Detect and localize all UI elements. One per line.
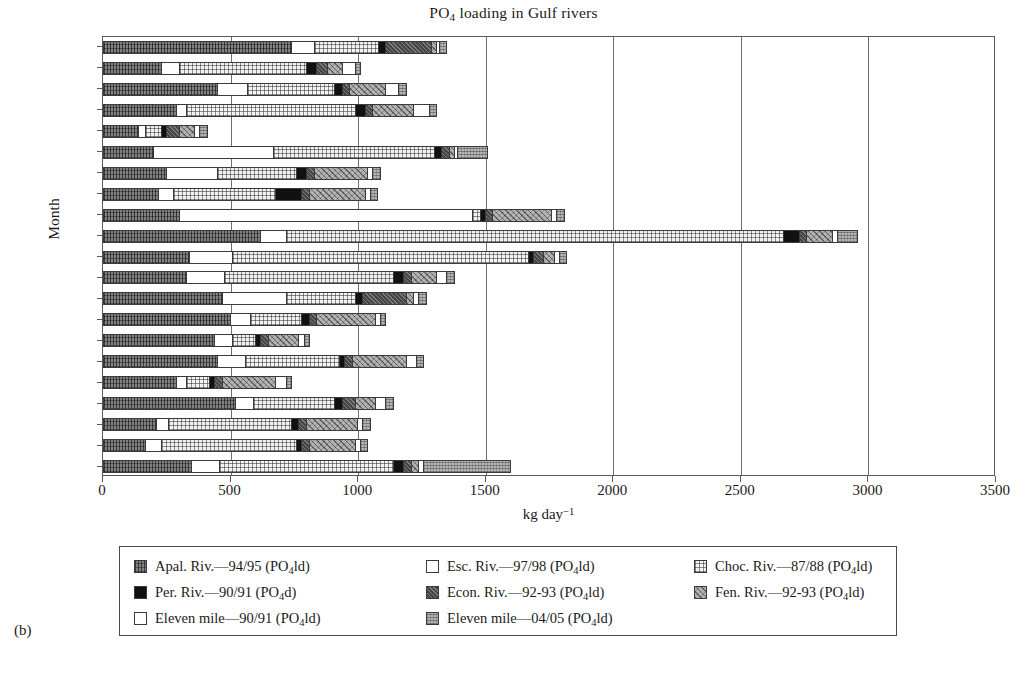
bar-segment-apal: [103, 41, 292, 54]
bar-segment-choc: [218, 167, 297, 180]
legend-swatch-choc: [694, 560, 707, 573]
bar-segment-esc: [218, 83, 249, 96]
bar-segment-apal: [103, 292, 223, 305]
y-tick-mark: [97, 298, 102, 299]
legend-item[interactable]: Eleven mile—04/05 (PO4ld): [426, 610, 694, 628]
x-tick-label: 2000: [597, 482, 627, 499]
bar-segment-esc: [218, 355, 246, 368]
bar-segment-eleven9091: [343, 62, 356, 75]
x-tick-mark: [357, 476, 358, 482]
legend-swatch-eleven0405: [426, 612, 439, 625]
bar-segment-fen: [223, 376, 277, 389]
legend-item[interactable]: Fen. Riv.—92-93 (PO4ld): [694, 584, 896, 602]
bar-row: [103, 230, 858, 243]
bar-segment-eleven0405: [386, 397, 394, 410]
bar-segment-eleven0405: [200, 125, 208, 138]
bar-row: [103, 313, 386, 326]
bar-segment-apal: [103, 125, 139, 138]
legend-grid: Apal. Riv.—94/95 (PO4ld)Esc. Riv.—97/98 …: [134, 554, 896, 632]
legend-item[interactable]: Choc. Riv.—87/88 (PO4ld): [694, 558, 896, 576]
x-axis-label-pre: kg day: [523, 506, 563, 522]
bar-segment-esc: [157, 418, 170, 431]
bar-segment-eleven0405: [361, 439, 369, 452]
bar-segment-esc: [146, 439, 161, 452]
bar-row: [103, 146, 488, 159]
legend-swatch-apal: [134, 560, 147, 573]
bar-segment-choc: [187, 104, 355, 117]
bar-segment-fen: [307, 418, 358, 431]
bar-segment-eleven0405: [560, 251, 568, 264]
bar-segment-fen: [180, 125, 195, 138]
bar-segment-per: [784, 230, 799, 243]
bar-row: [103, 271, 455, 284]
x-axis-label-superscript: −1: [563, 506, 574, 517]
chart-title: PO4 loading in Gulf rivers: [0, 4, 1027, 23]
bar-segment-esc: [180, 209, 473, 222]
x-tick-mark: [740, 476, 741, 482]
bar-row: [103, 41, 447, 54]
bar-segment-eleven0405: [838, 230, 858, 243]
bar-segment-choc: [251, 313, 302, 326]
x-axis-label: kg day−1: [102, 506, 995, 523]
legend-item[interactable]: Per. Riv.—90/91 (PO4d): [134, 584, 426, 602]
bar-segment-fen: [807, 230, 833, 243]
legend-item[interactable]: Apal. Riv.—94/95 (PO4ld): [134, 558, 426, 576]
bar-segment-apal: [103, 334, 215, 347]
bar-segment-eleven9091: [276, 376, 286, 389]
bar-segment-per: [394, 271, 404, 284]
bar-segment-econ: [366, 104, 374, 117]
legend-swatch-fen: [694, 586, 707, 599]
bar-segment-esc: [215, 334, 233, 347]
bar-segment-econ: [167, 125, 180, 138]
bar-segment-econ: [215, 376, 223, 389]
figure-panel-b: PO4 loading in Gulf rivers Month DecNovO…: [0, 0, 1027, 681]
bar-segment-fen: [317, 313, 376, 326]
bar-row: [103, 188, 378, 201]
bar-segment-fen: [310, 439, 356, 452]
bar-segment-choc: [274, 146, 435, 159]
bar-segment-choc: [174, 188, 276, 201]
legend-label: Apal. Riv.—94/95 (PO4ld): [155, 558, 310, 576]
legend-label: Choc. Riv.—87/88 (PO4ld): [715, 558, 872, 576]
bar-segment-apal: [103, 209, 180, 222]
y-tick-mark: [97, 403, 102, 404]
bar-segment-econ: [442, 146, 450, 159]
bar-segment-eleven0405: [305, 334, 310, 347]
bar-row: [103, 125, 208, 138]
bar-segment-fen: [373, 104, 414, 117]
bar-row: [103, 460, 511, 473]
bar-segment-fen: [328, 62, 343, 75]
chart-title-pre: PO: [429, 4, 449, 21]
bar-segment-per: [276, 188, 302, 201]
bar-segment-apal: [103, 230, 261, 243]
legend-item[interactable]: Econ. Riv.—92-93 (PO4ld): [426, 584, 694, 602]
legend-item[interactable]: Esc. Riv.—97/98 (PO4ld): [426, 558, 694, 576]
legend-label: Per. Riv.—90/91 (PO4d): [155, 584, 296, 602]
bar-segment-econ: [534, 251, 544, 264]
bar-segment-fen: [407, 292, 415, 305]
y-tick-mark: [97, 235, 102, 236]
bar-segment-fen: [544, 251, 554, 264]
legend-item[interactable]: Eleven mile—90/91 (PO4ld): [134, 610, 426, 628]
bar-segment-econ: [299, 418, 307, 431]
bar-segment-eleven0405: [381, 313, 386, 326]
bar-segment-choc: [473, 209, 481, 222]
bar-segment-per: [297, 167, 307, 180]
y-tick-mark: [97, 130, 102, 131]
x-tick-label: 3500: [980, 482, 1010, 499]
bar-segment-econ: [386, 41, 432, 54]
bar-row: [103, 104, 437, 117]
bar-segment-esc: [167, 167, 218, 180]
bar-segment-per: [379, 41, 387, 54]
bars-layer: [103, 37, 994, 475]
bar-segment-apal: [103, 313, 231, 326]
y-tick-mark: [97, 109, 102, 110]
legend-label: Eleven mile—04/05 (PO4ld): [447, 610, 613, 628]
bar-segment-apal: [103, 83, 218, 96]
bar-segment-esc: [223, 292, 287, 305]
bar-segment-eleven0405: [363, 418, 371, 431]
y-tick-mark: [97, 151, 102, 152]
bar-segment-eleven9091: [437, 271, 447, 284]
bar-row: [103, 397, 394, 410]
bar-segment-choc: [233, 251, 529, 264]
